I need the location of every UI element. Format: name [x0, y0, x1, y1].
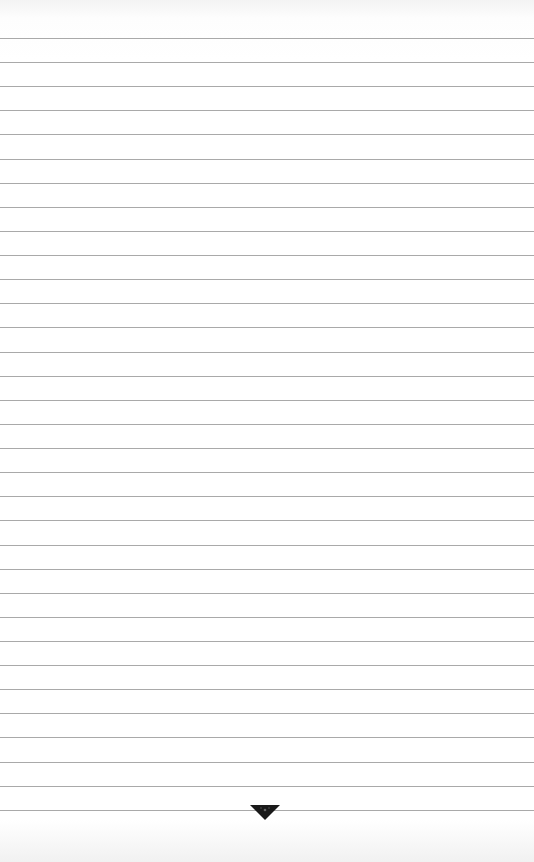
ruled-line — [0, 376, 534, 377]
ruled-line — [0, 86, 534, 87]
ruled-line — [0, 352, 534, 353]
ruled-line — [0, 424, 534, 425]
ruled-line — [0, 400, 534, 401]
ruled-line — [0, 183, 534, 184]
ruled-line — [0, 569, 534, 570]
ruled-line — [0, 303, 534, 304]
ruled-line — [0, 279, 534, 280]
ruled-line — [0, 134, 534, 135]
ruled-line — [0, 38, 534, 39]
lined-paper-page — [0, 0, 534, 862]
ruled-line — [0, 496, 534, 497]
ruled-line — [0, 520, 534, 521]
ruled-line — [0, 545, 534, 546]
ruled-line — [0, 110, 534, 111]
ruled-line — [0, 472, 534, 473]
ruled-line — [0, 159, 534, 160]
ruled-line — [0, 255, 534, 256]
ruled-line — [0, 207, 534, 208]
ruled-line — [0, 327, 534, 328]
ruled-line — [0, 617, 534, 618]
ruled-line — [0, 689, 534, 690]
ruled-line — [0, 762, 534, 763]
ruled-line — [0, 231, 534, 232]
ruled-line — [0, 641, 534, 642]
ruled-line — [0, 593, 534, 594]
ruled-line — [0, 713, 534, 714]
ruled-line — [0, 448, 534, 449]
triangle-ornament-icon — [250, 804, 280, 820]
ruled-line — [0, 737, 534, 738]
ruled-line — [0, 62, 534, 63]
ruled-line — [0, 665, 534, 666]
ruled-line — [0, 786, 534, 787]
